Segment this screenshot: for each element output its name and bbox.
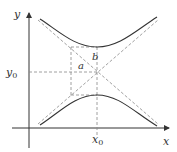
y-axis-label: y bbox=[13, 8, 21, 21]
hyperbola-upper-branch bbox=[40, 17, 157, 47]
y0-label: y0 bbox=[5, 66, 17, 80]
x-axis-label: x bbox=[163, 135, 170, 148]
hyperbola-lower-branch bbox=[40, 95, 157, 126]
a-label: a bbox=[78, 60, 84, 71]
x0-label: x0 bbox=[92, 133, 103, 147]
hyperbola-diagram: y x y0 x0 a b bbox=[0, 0, 177, 152]
b-label: b bbox=[92, 51, 98, 62]
